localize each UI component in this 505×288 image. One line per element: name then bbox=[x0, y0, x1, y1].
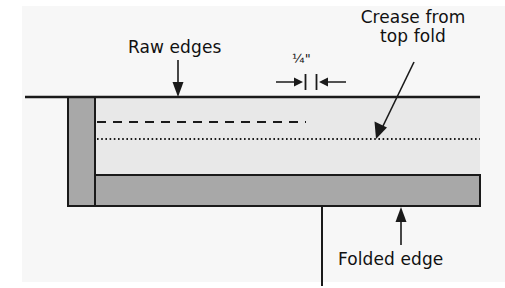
diagram-root: Raw edges Crease fromtop fold Folded edg… bbox=[0, 0, 505, 288]
crease-label-line1: Crease from bbox=[361, 7, 466, 27]
folded-edge-label: Folded edge bbox=[338, 250, 443, 269]
folded-edge-arrow-icon bbox=[396, 207, 407, 245]
crease-label-line2: top fold bbox=[380, 26, 446, 46]
bottom-dark-fabric-band bbox=[95, 175, 480, 206]
raw-edges-arrow-icon bbox=[173, 60, 184, 97]
raw-edges-label: Raw edges bbox=[128, 38, 221, 57]
crease-label: Crease fromtop fold bbox=[337, 8, 489, 46]
left-dark-fabric-band bbox=[68, 97, 95, 206]
light-fabric-panel bbox=[95, 97, 480, 175]
dimension-label: ¼" bbox=[292, 52, 311, 66]
dimension-callout-icon bbox=[276, 74, 346, 90]
